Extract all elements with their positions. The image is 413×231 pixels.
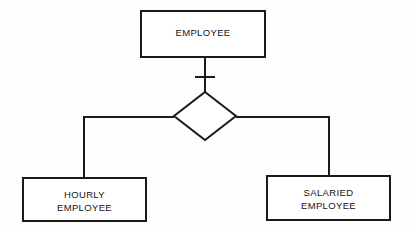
entity-box-hourly-employee[interactable] xyxy=(23,178,146,221)
entity-box-salaried-employee[interactable] xyxy=(267,176,390,220)
er-diagram-canvas: EMPLOYEE HOURLY EMPLOYEE SALARIED EMPLOY… xyxy=(0,0,413,231)
relationship-diamond[interactable] xyxy=(174,92,236,140)
entity-box-employee[interactable] xyxy=(141,11,265,57)
er-diagram-graphics xyxy=(0,0,413,231)
connector-diamond-to-salaried xyxy=(236,117,329,176)
connector-diamond-to-hourly xyxy=(84,117,174,178)
